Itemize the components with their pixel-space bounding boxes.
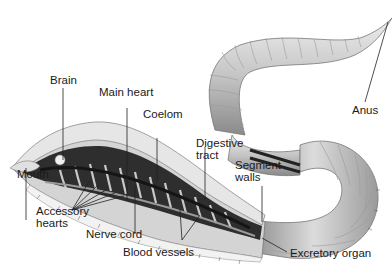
- label-segment-walls-line1: Segment: [235, 159, 281, 171]
- label-brain: Brain: [50, 74, 77, 86]
- worm-tail: [209, 18, 392, 135]
- label-segment-walls-line2: walls: [235, 171, 261, 183]
- label-excretory-organ: Excretory organ: [290, 247, 371, 259]
- label-nerve-cord: Nerve cord: [86, 228, 142, 240]
- label-mouth: Mouth: [17, 168, 49, 180]
- label-digestive-tract-line1: Digestive: [196, 137, 243, 149]
- label-main-heart: Main heart: [99, 86, 153, 98]
- label-accessory-hearts-line1: Accessory: [36, 205, 89, 217]
- label-coelom: Coelom: [143, 108, 183, 120]
- label-blood-vessels: Blood vessels: [123, 246, 194, 258]
- label-accessory-hearts-line2: hearts: [36, 217, 68, 229]
- label-anus: Anus: [352, 104, 378, 116]
- earthworm-diagram: Anus Brain Main heart Coelom Digestive t…: [0, 0, 392, 274]
- label-digestive-tract-line2: tract: [196, 149, 218, 161]
